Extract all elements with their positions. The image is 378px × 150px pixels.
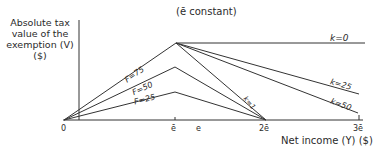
tick-label-2e: 2ē <box>259 124 269 134</box>
line-f50 <box>64 67 175 120</box>
tick-label-3e: 3ē <box>353 124 363 134</box>
line-f50-decline <box>175 67 266 120</box>
line-f75 <box>64 43 176 120</box>
chart-plot <box>0 0 378 150</box>
tick-label-e: ē <box>171 124 176 134</box>
tick-label-0: 0 <box>61 124 66 134</box>
label-k0: k=0 <box>330 33 348 43</box>
x-axis-label: Net income (Y) ($) <box>281 136 373 146</box>
line-f25 <box>64 92 175 120</box>
tick-label-e-extra: e <box>196 124 201 134</box>
